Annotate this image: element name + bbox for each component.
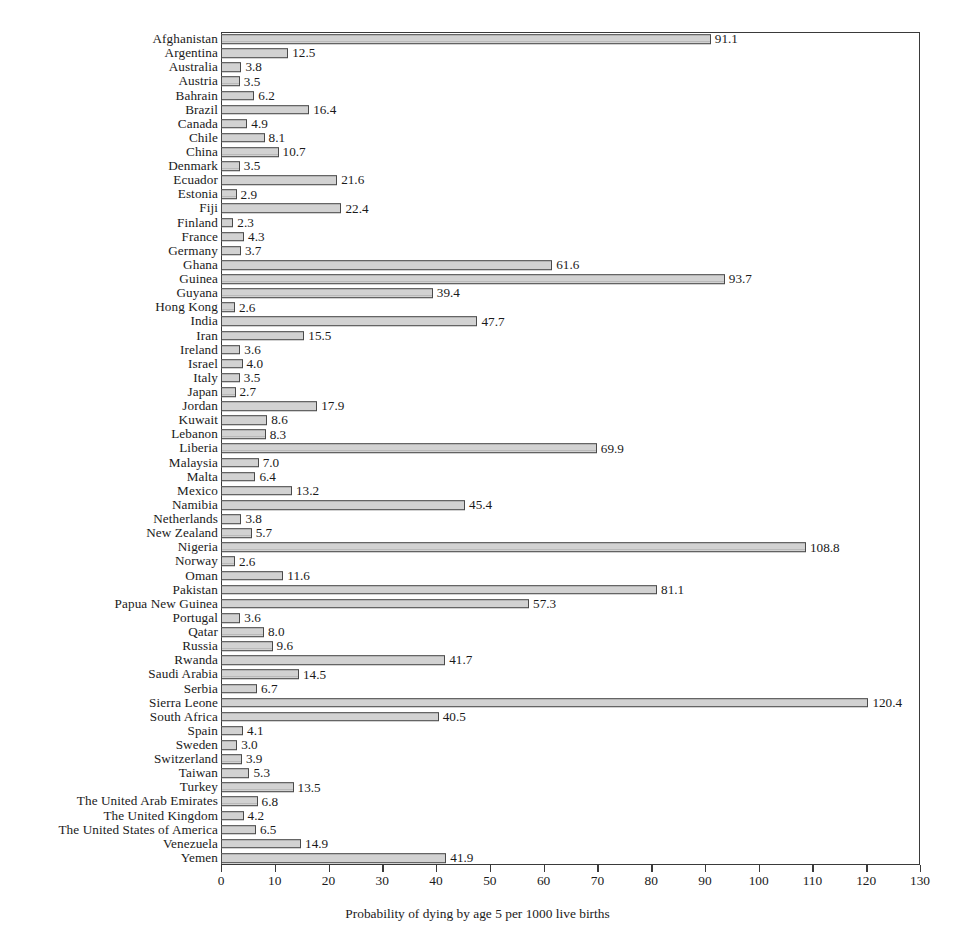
bar-value-label: 14.5 xyxy=(303,668,326,681)
bar-row: Ecuador21.6 xyxy=(0,173,955,187)
bar-value-label: 11.6 xyxy=(287,569,310,582)
category-label: Ghana xyxy=(183,258,218,271)
bar[interactable] xyxy=(221,415,267,425)
bar-row: Mexico13.2 xyxy=(0,484,955,498)
x-axis-tick-label: 120 xyxy=(856,874,876,887)
bar-row: China10.7 xyxy=(0,145,955,159)
bar[interactable] xyxy=(221,528,252,538)
bar[interactable] xyxy=(221,613,240,623)
bar[interactable] xyxy=(221,190,237,200)
bar-row: Switzerland3.9 xyxy=(0,752,955,766)
bar[interactable] xyxy=(221,698,868,708)
bar-value-label: 17.9 xyxy=(321,400,344,413)
bar[interactable] xyxy=(221,77,240,87)
bar-group: 2.6 xyxy=(221,303,255,313)
bar[interactable] xyxy=(221,599,529,609)
bar[interactable] xyxy=(221,133,265,143)
bar-row: Argentina12.5 xyxy=(0,46,955,60)
category-label: Netherlands xyxy=(153,512,218,525)
bar[interactable] xyxy=(221,91,254,101)
bar[interactable] xyxy=(221,514,241,524)
bar[interactable] xyxy=(221,825,256,835)
category-label: South Africa xyxy=(150,710,218,723)
bar-group: 41.9 xyxy=(221,853,473,863)
bar[interactable] xyxy=(221,303,235,313)
bar[interactable] xyxy=(221,458,259,468)
bar[interactable] xyxy=(221,783,294,793)
bar[interactable] xyxy=(221,684,257,694)
bar[interactable] xyxy=(221,797,258,807)
bar[interactable] xyxy=(221,345,240,355)
bar-row: Canada4.9 xyxy=(0,117,955,131)
bar[interactable] xyxy=(221,48,288,58)
bar-group: 4.3 xyxy=(221,232,265,242)
bar[interactable] xyxy=(221,232,244,242)
bar[interactable] xyxy=(221,543,806,553)
bar[interactable] xyxy=(221,105,309,115)
bar[interactable] xyxy=(221,359,243,369)
bar[interactable] xyxy=(221,161,240,171)
bar[interactable] xyxy=(221,260,552,270)
bar-value-label: 5.3 xyxy=(253,767,269,780)
category-label: China xyxy=(186,145,218,158)
bar[interactable] xyxy=(221,62,241,72)
x-axis-tick xyxy=(382,865,383,872)
bar[interactable] xyxy=(221,641,273,651)
bar[interactable] xyxy=(221,147,279,157)
bar[interactable] xyxy=(221,585,657,595)
bar[interactable] xyxy=(221,218,233,228)
bar-group: 13.5 xyxy=(221,783,321,793)
bar[interactable] xyxy=(221,627,264,637)
bar[interactable] xyxy=(221,754,242,764)
bar-value-label: 39.4 xyxy=(437,287,460,300)
bar-row: Turkey13.5 xyxy=(0,780,955,794)
bar[interactable] xyxy=(221,726,243,736)
bar[interactable] xyxy=(221,571,283,581)
bar-row: Pakistan81.1 xyxy=(0,583,955,597)
bar[interactable] xyxy=(221,119,247,129)
bar[interactable] xyxy=(221,175,337,185)
bar[interactable] xyxy=(221,655,445,665)
category-label: Chile xyxy=(189,131,218,144)
bar[interactable] xyxy=(221,317,477,327)
bar[interactable] xyxy=(221,401,317,411)
bar[interactable] xyxy=(221,712,439,722)
bar[interactable] xyxy=(221,853,446,863)
bar-group: 6.7 xyxy=(221,684,278,694)
bar[interactable] xyxy=(221,288,433,298)
bar[interactable] xyxy=(221,34,711,44)
bar[interactable] xyxy=(221,373,240,383)
x-axis-tick-label: 20 xyxy=(322,874,335,887)
bar[interactable] xyxy=(221,811,244,821)
category-label: The United Kingdom xyxy=(103,809,218,822)
bar-group: 2.9 xyxy=(221,190,257,200)
bar[interactable] xyxy=(221,557,235,567)
bar-row: Germany3.7 xyxy=(0,244,955,258)
bar[interactable] xyxy=(221,331,304,341)
bar-row: Afghanistan91.1 xyxy=(0,32,955,46)
bar[interactable] xyxy=(221,204,341,214)
bar[interactable] xyxy=(221,486,292,496)
bar-row: Guyana39.4 xyxy=(0,286,955,300)
bar[interactable] xyxy=(221,274,725,284)
x-axis-tick xyxy=(221,865,222,872)
x-axis-tick xyxy=(275,865,276,872)
bar[interactable] xyxy=(221,500,465,510)
bar[interactable] xyxy=(221,387,236,397)
bar-value-label: 3.0 xyxy=(241,738,257,751)
bar-row: Yemen41.9 xyxy=(0,851,955,865)
bar-group: 10.7 xyxy=(221,147,306,157)
bar[interactable] xyxy=(221,768,249,778)
bar-value-label: 2.6 xyxy=(239,555,255,568)
category-label: New Zealand xyxy=(146,527,218,540)
bar[interactable] xyxy=(221,430,266,440)
category-label: Turkey xyxy=(180,781,218,794)
bar[interactable] xyxy=(221,246,241,256)
bar[interactable] xyxy=(221,839,301,849)
x-axis-tick xyxy=(920,865,921,872)
x-axis-tick xyxy=(329,865,330,872)
bar[interactable] xyxy=(221,740,237,750)
bar[interactable] xyxy=(221,444,597,454)
bar[interactable] xyxy=(221,472,255,482)
bar[interactable] xyxy=(221,670,299,680)
